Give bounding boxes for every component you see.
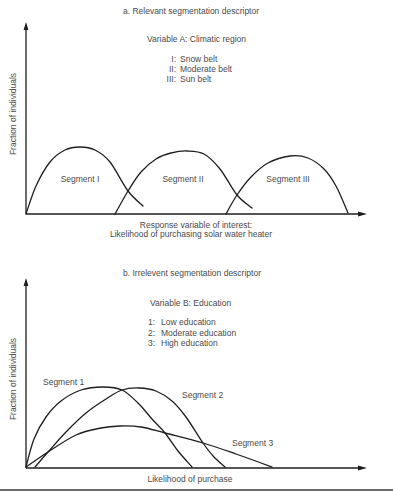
segment-label: Segment III [266, 174, 309, 184]
panel-a-y-axis-label: Fraction of individuals [8, 73, 18, 155]
legend-label: Moderate belt [180, 64, 233, 74]
panel-b-title: b. Irrelevent segmentation descriptor [123, 268, 261, 278]
legend-label: Low education [161, 317, 216, 327]
legend-label: High education [161, 338, 218, 348]
legend-key: III: [167, 74, 176, 84]
legend-key: 3: [148, 338, 155, 348]
arrow-right-icon [358, 466, 367, 471]
legend-key: 2: [148, 328, 155, 338]
arrow-right-icon [358, 212, 367, 217]
curve-segment-iii [226, 156, 348, 214]
legend-label: Snow belt [180, 54, 218, 64]
legend-key: I: [171, 54, 176, 64]
panel-a-legend-title: Variable A: Climatic region [147, 34, 246, 44]
segment-label: Segment 2 [182, 390, 223, 400]
panel-a-x-axis-label-line2: Likelihood of purchasing solar water hea… [110, 229, 272, 239]
segment-label: Segment I [61, 174, 100, 184]
panel-b-x-axis-label: Likelihood of purchase [147, 474, 232, 484]
panel-a-legend: I: Snow belt II: Moderate belt III: Sun … [167, 54, 233, 84]
panel-b: b. Irrelevent segmentation descriptor Va… [8, 268, 367, 484]
panel-b-y-axis-label: Fraction of individuals [8, 338, 18, 420]
arrow-up-icon [24, 278, 29, 286]
arrow-up-icon [24, 22, 29, 30]
legend-key: 1: [148, 317, 155, 327]
panel-b-legend: 1: Low education 2: Moderate education 3… [148, 317, 236, 348]
legend-key: II: [169, 64, 176, 74]
panel-b-legend-title: Variable B: Education [150, 298, 231, 308]
legend-label: Moderate education [161, 328, 236, 338]
segment-label: Segment II [162, 174, 203, 184]
segment-label: Segment 3 [232, 438, 273, 448]
segmentation-figure: a. Relevant segmentation descriptor Vari… [0, 0, 393, 493]
panel-a-title: a. Relevant segmentation descriptor [123, 6, 259, 16]
legend-label: Sun belt [180, 74, 212, 84]
panel-a: a. Relevant segmentation descriptor Vari… [8, 6, 367, 239]
segment-label: Segment 1 [43, 377, 84, 387]
